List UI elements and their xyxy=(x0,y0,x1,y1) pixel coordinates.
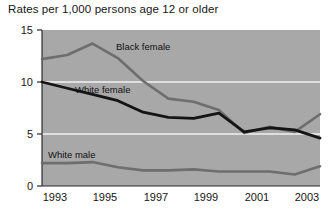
series-label-white-female: White female xyxy=(75,84,130,95)
x-tick-label-2001: 2001 xyxy=(245,191,269,203)
y-tick-label-10: 10 xyxy=(21,76,33,88)
x-tick-label-1993: 1993 xyxy=(43,191,67,203)
y-tick-label-0: 0 xyxy=(27,180,33,192)
x-tick-label-1999: 1999 xyxy=(194,191,218,203)
x-tick-label-2003: 2003 xyxy=(295,191,319,203)
series-label-white-male: White male xyxy=(48,149,96,160)
x-tick-label-1997: 1997 xyxy=(144,191,168,203)
line-chart-plot: 15 10 5 0 1993 1995 1997 1999 2001 2003 … xyxy=(0,0,335,219)
y-tick-label-5: 5 xyxy=(27,128,33,140)
chart-figure: Rates per 1,000 persons age 12 or older … xyxy=(0,0,335,219)
series-label-black-female: Black female xyxy=(116,41,170,52)
x-tick-label-1995: 1995 xyxy=(93,191,117,203)
y-tick-label-15: 15 xyxy=(21,24,33,36)
